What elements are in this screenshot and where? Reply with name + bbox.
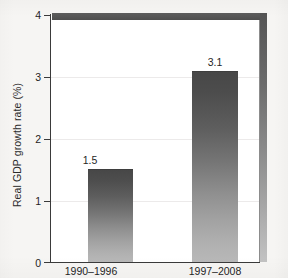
bar-1990-1996 [88,169,133,262]
value-label-1997-2008: 3.1 [193,57,237,68]
plot-area [51,15,260,262]
y-tick-label-2: 2 [11,134,41,145]
x-category-label-1997-2008: 1997–2008 [184,266,246,277]
bar-top-edge [88,169,133,170]
value-label-1990-1996: 1.5 [68,155,112,166]
bar-1997-2008 [192,71,238,262]
x-axis-line [50,262,260,263]
y-tick-label-3: 3 [11,72,41,83]
x-category-label-1990-1996: 1990–1996 [60,266,122,277]
y-axis-line [50,14,51,263]
y-tick-label-1: 1 [11,196,41,207]
plot-frame-top-band [52,13,260,20]
y-tick-label-0: 0 [11,258,41,269]
bar-chart-figure: Real GDP growth rate (%) 4 3 2 1 0 [0,0,288,278]
plot-frame-right-band [260,13,267,262]
bar-top-edge [192,71,238,72]
y-tick-label-4: 4 [11,10,41,21]
y-axis-title: Real GDP growth rate (%) [11,35,23,255]
